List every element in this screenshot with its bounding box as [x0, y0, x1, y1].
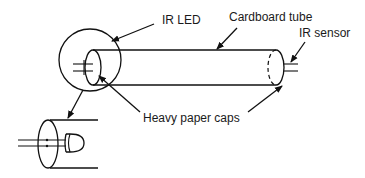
cardboard-tube-label: Cardboard tube	[229, 10, 313, 24]
detail-paper-cap	[38, 120, 58, 168]
ir-sensor-leads	[284, 64, 298, 71]
ir-led-leads	[73, 60, 93, 75]
ir-led-label: IR LED	[162, 13, 201, 27]
right-paper-cap-hidden	[268, 50, 276, 85]
magnifier-circle	[59, 29, 121, 91]
paper-cap-right-arrow	[248, 86, 282, 112]
led-detail-inset	[18, 120, 98, 168]
ir-tube-diagram: IR LED Cardboard tube IR sensor Heavy pa…	[0, 0, 365, 178]
left-paper-cap	[85, 50, 101, 85]
ir-led-body	[65, 134, 84, 152]
paper-cap-left-arrow	[99, 76, 140, 112]
ir-sensor-arrow	[291, 42, 305, 62]
cardboard-tube-arrow	[217, 28, 237, 49]
ir-sensor-label: IR sensor	[299, 26, 350, 40]
cardboard-tube	[85, 50, 284, 85]
detail-arrow	[68, 90, 83, 118]
right-tube-end	[276, 50, 284, 85]
ir-led-arrow	[112, 24, 154, 41]
heavy-paper-caps-label: Heavy paper caps	[143, 111, 240, 125]
